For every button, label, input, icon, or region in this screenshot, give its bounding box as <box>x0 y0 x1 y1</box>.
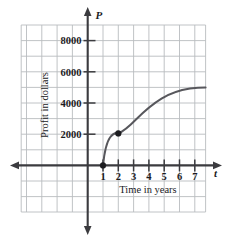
x-tick-label-3: 3 <box>131 171 136 182</box>
x-tick-label-6: 6 <box>177 171 182 182</box>
y-axis-symbol-P: P <box>96 9 103 21</box>
x-tick-labels: 1 2 3 4 5 6 7 <box>100 171 197 182</box>
y-axis-down-arrow-icon <box>84 226 92 235</box>
profit-vs-time-chart: 2000 4000 6000 8000 1 2 3 4 5 6 7 P t Pr… <box>0 0 232 237</box>
y-axis-up-arrow-icon <box>84 7 92 16</box>
x-axis-title: Time in years <box>119 184 176 195</box>
y-tick-label-6000: 6000 <box>61 67 82 78</box>
data-point-1-0 <box>100 163 106 169</box>
chart-svg: 2000 4000 6000 8000 1 2 3 4 5 6 7 P t Pr… <box>0 0 232 237</box>
x-tick-label-4: 4 <box>146 171 152 182</box>
chart-tick-marks <box>84 41 195 172</box>
x-tick-label-2: 2 <box>116 171 121 182</box>
x-tick-label-7: 7 <box>192 171 197 182</box>
y-tick-label-2000: 2000 <box>61 129 82 140</box>
x-axis-left-arrow-icon <box>10 162 19 170</box>
y-tick-label-8000: 8000 <box>61 35 82 46</box>
y-tick-label-4000: 4000 <box>61 98 82 109</box>
x-axis-symbol-t: t <box>214 167 218 179</box>
data-point-2-2000 <box>115 131 121 137</box>
x-tick-label-1: 1 <box>100 171 105 182</box>
y-axis-title: Profit in dollars <box>39 72 50 138</box>
x-tick-label-5: 5 <box>162 171 167 182</box>
